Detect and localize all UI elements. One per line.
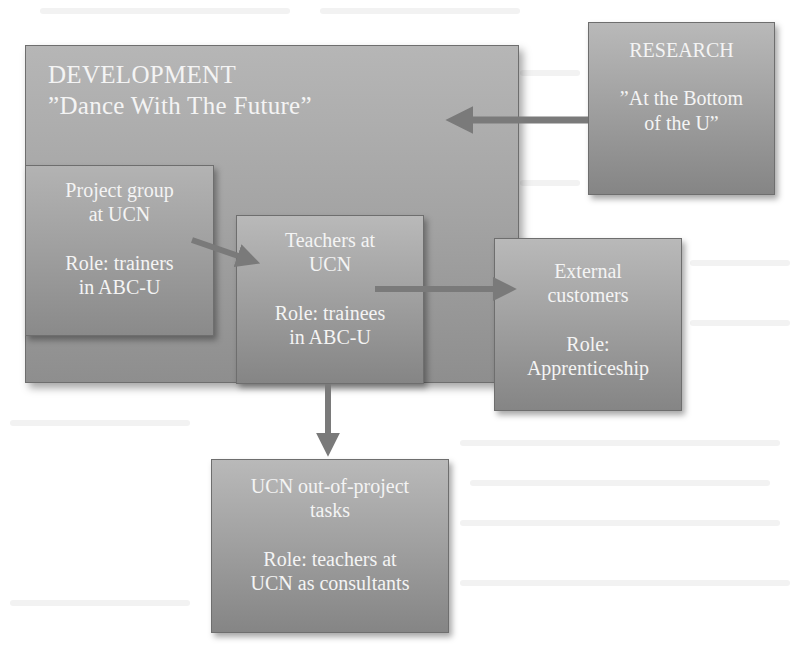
ucn-tasks-line2: tasks bbox=[212, 498, 448, 522]
project-group-role-line2: in ABC-U bbox=[26, 275, 213, 299]
teachers-line1: Teachers at bbox=[237, 228, 423, 252]
research-box: RESEARCH ”At the Bottom of the U” bbox=[588, 22, 775, 195]
development-title: DEVELOPMENT bbox=[48, 60, 312, 91]
development-subtitle: ”Dance With The Future” bbox=[48, 91, 312, 122]
teachers-line2: UCN bbox=[237, 252, 423, 276]
research-subtitle-line2: of the U” bbox=[589, 111, 774, 135]
external-line2: customers bbox=[495, 283, 681, 307]
external-role-line2: Apprenticeship bbox=[495, 356, 681, 380]
ucn-tasks-role-line2: UCN as consultants bbox=[212, 571, 448, 595]
external-customers-box: External customers Role: Apprenticeship bbox=[494, 238, 682, 411]
project-group-box: Project group at UCN Role: trainers in A… bbox=[25, 165, 214, 336]
teachers-role-line1: Role: trainees bbox=[237, 301, 423, 325]
development-title-block: DEVELOPMENT ”Dance With The Future” bbox=[48, 60, 312, 121]
research-subtitle-line1: ”At the Bottom bbox=[589, 86, 774, 110]
teachers-role-line2: in ABC-U bbox=[237, 325, 423, 349]
ucn-tasks-line1: UCN out-of-project bbox=[212, 474, 448, 498]
project-group-role-line1: Role: trainers bbox=[26, 251, 213, 275]
research-title: RESEARCH bbox=[589, 38, 774, 62]
ucn-tasks-box: UCN out-of-project tasks Role: teachers … bbox=[211, 459, 449, 633]
project-group-line2: at UCN bbox=[26, 202, 213, 226]
ucn-tasks-role-line1: Role: teachers at bbox=[212, 547, 448, 571]
external-line1: External bbox=[495, 259, 681, 283]
external-role-line1: Role: bbox=[495, 332, 681, 356]
project-group-line1: Project group bbox=[26, 178, 213, 202]
teachers-box: Teachers at UCN Role: trainees in ABC-U bbox=[236, 215, 424, 384]
